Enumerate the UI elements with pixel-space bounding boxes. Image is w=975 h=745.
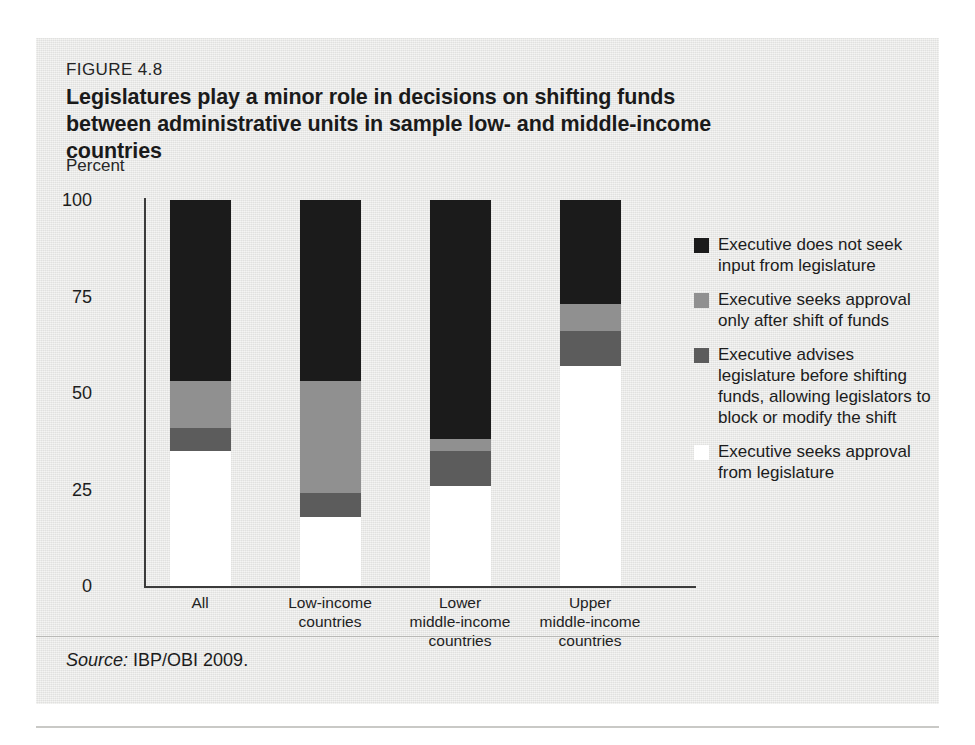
legend-label: Executive advises legislature before shi… [718,344,934,428]
segment-white [430,486,491,586]
x-label-line: middle-income [385,612,535,631]
y-axis-line [144,198,146,588]
x-label-2: Lowermiddle-incomecountries [385,593,535,650]
figure-panel: FIGURE 4.8 Legislatures play a minor rol… [36,38,939,704]
bar-all[interactable] [170,200,231,586]
x-axis-line [144,586,696,588]
y-tick-0: 0 [32,576,92,597]
legend-swatch-black-icon [694,238,709,253]
segment-gray [430,439,491,451]
segment-darkgray [560,331,621,366]
x-label-line: All [125,593,275,612]
segment-black [300,200,361,381]
figure-title: Legislatures play a minor role in decisi… [66,84,746,165]
x-label-line: middle-income [515,612,665,631]
source-value: IBP/OBI 2009. [133,650,248,670]
segment-black [430,200,491,439]
y-axis-unit-label: Percent [66,156,125,176]
legend-label: Executive seeks approval only after shif… [718,289,934,331]
legend-swatch-white-icon [694,445,709,460]
x-label-1: Low-incomecountries [255,593,405,631]
x-label-line: countries [255,612,405,631]
segment-white [300,517,361,586]
segment-black [560,200,621,304]
segment-darkgray [430,451,491,486]
legend-label: Executive seeks approval from legislatur… [718,441,934,483]
y-tick-100: 100 [32,190,92,211]
bar-lower-middle-income-countries[interactable] [430,200,491,586]
bar-low-income-countries[interactable] [300,200,361,586]
legend-swatch-gray-icon [694,293,709,308]
x-label-line: Upper [515,593,665,612]
legend-swatch-darkgray-icon [694,348,709,363]
figure-number: FIGURE 4.8 [66,60,163,80]
source-label: Source: [66,650,128,670]
segment-white [170,451,231,586]
segment-gray [300,381,361,493]
x-label-line: Lower [385,593,535,612]
y-tick-25: 25 [32,479,92,500]
segment-darkgray [300,493,361,516]
legend-item-3[interactable]: Executive seeks approval from legislatur… [694,441,934,483]
segment-white [560,366,621,586]
segment-gray [560,304,621,331]
bar-upper-middle-income-countries[interactable] [560,200,621,586]
x-label-3: Uppermiddle-incomecountries [515,593,665,650]
segment-black [170,200,231,381]
legend-item-1[interactable]: Executive seeks approval only after shif… [694,289,934,331]
y-tick-75: 75 [32,286,92,307]
chart-legend: Executive does not seek input from legis… [694,234,934,496]
chart-plot-area: 0255075100 AllLow-incomecountriesLowermi… [106,193,696,593]
x-label-0: All [125,593,275,612]
x-label-line: countries [515,631,665,650]
segment-gray [170,381,231,427]
x-label-line: countries [385,631,535,650]
segment-darkgray [170,428,231,451]
page-rule [36,726,939,728]
legend-label: Executive does not seek input from legis… [718,234,934,276]
legend-item-0[interactable]: Executive does not seek input from legis… [694,234,934,276]
y-tick-50: 50 [32,383,92,404]
x-label-line: Low-income [255,593,405,612]
source-divider [36,636,939,637]
legend-item-2[interactable]: Executive advises legislature before shi… [694,344,934,428]
source-note: Source: IBP/OBI 2009. [66,650,248,671]
